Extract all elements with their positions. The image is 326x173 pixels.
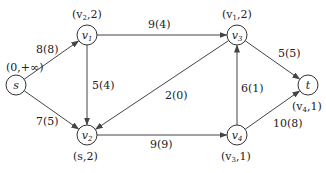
edge-label-s-v2: 7(5): [36, 115, 59, 128]
edge-label-v4-v3: 6(1): [241, 82, 264, 95]
node-label-s: (0,+∞): [6, 61, 43, 74]
edge-label-s-v1: 8(8): [36, 43, 59, 56]
node-label-v2: (s,2): [73, 150, 98, 163]
edge-label-v4-t: 10(8): [273, 117, 303, 130]
edge-label-v2-v4: 9(9): [150, 138, 173, 151]
edge-label-v1-v3: 9(4): [148, 18, 171, 31]
edge-label-v1-v2: 5(4): [92, 79, 115, 92]
node-label-v4: (v3,1): [221, 150, 251, 164]
node-name-t: t: [306, 79, 311, 92]
node-label-v3: (v1,2): [222, 8, 252, 22]
node-label-t: (v4,1): [292, 100, 322, 114]
edge-label-v3-v2: 2(0): [165, 89, 188, 102]
edge-v3-v2: [96, 41, 229, 130]
edge-label-v3-t: 5(5): [278, 47, 301, 60]
node-name-s: s: [13, 79, 19, 92]
network-flow-diagram: 8(8)7(5)9(4)5(4)2(0)5(5)9(9)6(1)10(8) sv…: [0, 0, 326, 173]
node-label-v1: (v2,2): [72, 8, 102, 22]
